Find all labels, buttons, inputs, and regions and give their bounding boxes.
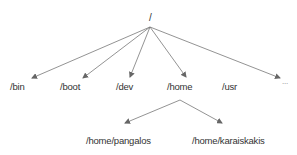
node-home: /home	[167, 82, 192, 92]
node-dev: /dev	[116, 82, 133, 92]
node-usr: /usr	[222, 82, 237, 92]
node-bin: /bin	[10, 82, 25, 92]
edge-root-home	[150, 27, 186, 77]
node-more: ...	[282, 78, 288, 86]
tree-edges	[0, 0, 297, 155]
edge-home-pangalos	[125, 100, 180, 123]
node-home-pangalos: /home/pangalos	[86, 136, 151, 146]
node-boot: /boot	[60, 82, 80, 92]
edge-root-more	[150, 27, 280, 78]
edge-home-karaiskakis	[180, 100, 222, 123]
node-root: /	[149, 13, 152, 23]
node-home-karaiskakis: /home/karaiskakis	[192, 136, 265, 146]
